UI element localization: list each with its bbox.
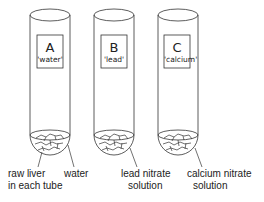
tube-b-letter: B [101,40,127,55]
lead-label-1: lead nitrate [121,168,170,179]
tube-a-label: 'water' [37,55,63,64]
liver-label-1: raw liver [8,168,45,179]
test-tube-b [94,9,134,155]
calcium-label-1: calcium nitrate [187,168,251,179]
calcium-label-2: solution [193,180,227,191]
test-tube-a [30,9,70,155]
test-tube-c [158,9,198,155]
leader-lines [38,145,202,167]
liver-chunks [35,134,192,151]
tube-c-label: 'calcium' [164,55,190,64]
tube-a-letter: A [37,40,63,55]
tube-c-letter: C [164,40,190,55]
tube-b-label: 'lead' [101,55,127,64]
water-label: water [64,168,88,179]
liver-label-2: in each tube [8,180,63,191]
lead-label-2: solution [128,180,162,191]
